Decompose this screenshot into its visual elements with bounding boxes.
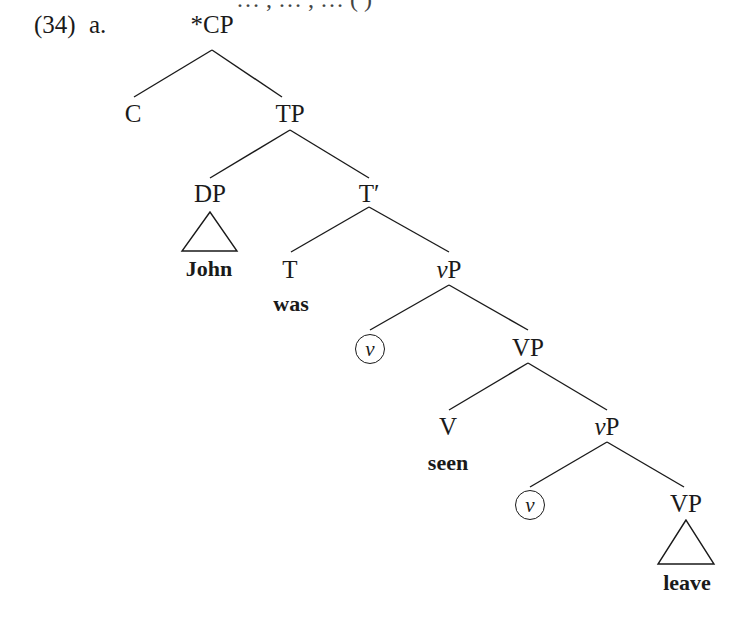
word-leave: leave xyxy=(663,572,711,594)
node-big-vp-1: VP xyxy=(512,335,544,360)
node-little-v-circled-1: v xyxy=(355,334,385,364)
word-seen: seen xyxy=(428,452,468,474)
node-cp-root: *CP xyxy=(190,12,233,37)
node-c: C xyxy=(125,101,142,126)
node-little-vp-1: vP xyxy=(436,257,461,282)
syntax-tree-diagram: … , … , … ( ) (34) a. *CP C TP DP John T… xyxy=(0,0,741,618)
node-big-vp-2: VP xyxy=(670,491,702,516)
node-t: T xyxy=(282,257,297,282)
node-little-v-circled-2: v xyxy=(515,490,545,520)
node-little-vp-2: vP xyxy=(594,414,619,439)
example-sublabel: a. xyxy=(89,12,106,37)
node-tp: TP xyxy=(275,101,304,126)
node-dp: DP xyxy=(194,181,226,206)
example-number: (34) xyxy=(34,12,76,37)
dp-triangle xyxy=(182,212,237,251)
node-t-bar: T′ xyxy=(359,181,380,206)
word-was: was xyxy=(273,293,308,315)
ungrammatical-star: * xyxy=(190,11,203,38)
node-v: V xyxy=(439,414,457,439)
tree-branches xyxy=(0,0,741,618)
word-john: John xyxy=(186,258,232,280)
vp-triangle xyxy=(658,520,714,564)
cropped-header-text: … , … , … ( ) xyxy=(236,0,372,13)
